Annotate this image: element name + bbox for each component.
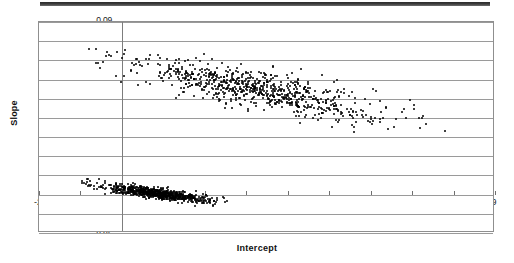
scatter-point <box>220 89 222 91</box>
scatter-point <box>198 82 200 84</box>
scatter-point <box>266 86 268 88</box>
scatter-point <box>157 186 159 188</box>
scatter-point <box>248 80 250 82</box>
scatter-point <box>232 73 234 75</box>
scatter-point <box>235 99 237 101</box>
scatter-point <box>329 90 331 92</box>
scatter-point <box>179 71 181 73</box>
scatter-point <box>205 85 207 87</box>
scatter-point <box>270 94 272 96</box>
scatter-point <box>271 106 273 108</box>
scatter-point <box>197 74 199 76</box>
scatter-point <box>109 184 111 186</box>
scatter-point <box>280 84 282 86</box>
scatter-point <box>208 91 210 93</box>
scatter-point <box>240 63 242 65</box>
scatter-point <box>93 188 95 190</box>
scatter-point <box>379 100 381 102</box>
scatter-point <box>290 81 292 83</box>
scatter-point <box>188 82 190 84</box>
scatter-point <box>169 73 171 75</box>
scatter-point <box>289 91 291 93</box>
scatter-point <box>201 68 203 70</box>
scatter-point <box>199 78 201 80</box>
scatter-point <box>291 101 293 103</box>
scatter-point <box>166 71 168 73</box>
scatter-point <box>194 68 196 70</box>
scatter-point <box>379 118 381 120</box>
scatter-point <box>276 75 278 77</box>
scatter-point <box>89 185 91 187</box>
scatter-point <box>419 127 421 129</box>
scatter-point <box>303 109 305 111</box>
scatter-point <box>160 188 162 190</box>
scatter-point <box>120 81 122 83</box>
scatter-point <box>250 76 252 78</box>
scatter-point <box>317 119 319 121</box>
scatter-point <box>159 72 161 74</box>
scatter-point <box>276 101 278 103</box>
scatter-point <box>98 178 100 180</box>
scatter-point <box>247 72 249 74</box>
scatter-point <box>237 90 239 92</box>
scatter-point <box>304 106 306 108</box>
scatter-point <box>317 108 319 110</box>
scatter-point <box>148 58 150 60</box>
scatter-point <box>226 79 228 81</box>
scatter-point <box>286 74 288 76</box>
scatter-point <box>214 85 216 87</box>
scatter-point <box>177 69 179 71</box>
scatter-point <box>353 131 355 133</box>
scatter-point <box>329 109 331 111</box>
scatter-point <box>263 90 265 92</box>
scatter-point <box>112 188 114 190</box>
scatter-point <box>264 77 266 79</box>
scatter-point <box>278 102 280 104</box>
scatter-point <box>166 58 168 60</box>
scatter-point <box>273 88 275 90</box>
scatter-point <box>208 76 210 78</box>
scatter-point <box>96 188 98 190</box>
scatter-point <box>212 205 214 207</box>
scatter-point <box>224 107 226 109</box>
scatter-point <box>127 192 129 194</box>
scatter-point <box>351 91 353 93</box>
scatter-point <box>185 83 187 85</box>
scatter-point <box>203 53 205 55</box>
scatter-point <box>154 189 156 191</box>
scatter-point <box>343 92 345 94</box>
scatter-point <box>149 83 151 85</box>
scatter-point <box>215 201 217 203</box>
scatter-point <box>181 74 183 76</box>
scatter-point <box>187 201 189 203</box>
scatter-point <box>227 66 229 68</box>
scatter-point <box>89 180 91 182</box>
scatter-point <box>222 196 224 198</box>
scatter-point <box>333 105 335 107</box>
scatter-point <box>260 72 262 74</box>
scatter-point <box>241 76 243 78</box>
scatter-point <box>223 87 225 89</box>
scatter-point <box>206 68 208 70</box>
scatter-point <box>280 90 282 92</box>
scatter-point <box>223 96 225 98</box>
scatter-point <box>361 114 363 116</box>
scatter-point <box>205 82 207 84</box>
scatter-point <box>340 104 342 106</box>
scatter-point <box>296 88 298 90</box>
scatter-point <box>86 181 88 183</box>
scatter-point <box>213 200 215 202</box>
scatter-point <box>217 93 219 95</box>
scatter-point <box>138 61 140 63</box>
scatter-point <box>263 82 265 84</box>
scatter-point <box>218 85 220 87</box>
scatter-point <box>142 190 144 192</box>
scatter-point <box>281 101 283 103</box>
scatter-point <box>321 74 323 76</box>
scatter-point <box>304 96 306 98</box>
gridline-y <box>39 233 493 234</box>
scatter-point <box>338 119 340 121</box>
scatter-point <box>253 96 255 98</box>
scatter-point <box>133 187 135 189</box>
scatter-point <box>413 104 415 106</box>
